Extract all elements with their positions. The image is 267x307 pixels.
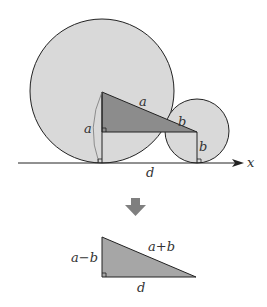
label-arc-a: a [84,121,92,136]
label-a-plus-b: a+b [148,239,175,254]
down-arrow-icon [125,198,146,216]
label-base-d: d [146,165,154,180]
label-hyp-a: a [139,94,147,109]
label-vert-b: b [199,139,207,154]
label-hyp-b: b [178,114,186,129]
label-axis-x: x [247,155,255,170]
diagram-canvas: a b a b d x a−b a+b d [0,0,267,307]
label-bottom-d: d [137,280,145,295]
label-a-minus-b: a−b [71,250,98,265]
